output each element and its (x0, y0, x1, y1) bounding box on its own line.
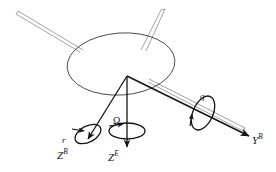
label-y-body: YB (252, 135, 263, 146)
arm-upper-left (16, 11, 83, 52)
spin-arrow-r (72, 120, 104, 147)
label-z-earth: ZE (108, 152, 119, 163)
axis-diagram-figure: ZB ZE YB r q Ω (0, 0, 276, 172)
label-rate-r: r (62, 136, 66, 145)
spin-arrow-r-head (72, 129, 84, 131)
vector-y-body (127, 76, 249, 136)
label-rate-omega: Ω (113, 116, 120, 126)
label-z-body: ZB (57, 150, 68, 161)
diagram-canvas (0, 0, 276, 172)
label-rate-q: q (200, 92, 205, 101)
vector-z-body (88, 76, 127, 139)
arm-upper-right (141, 9, 165, 51)
